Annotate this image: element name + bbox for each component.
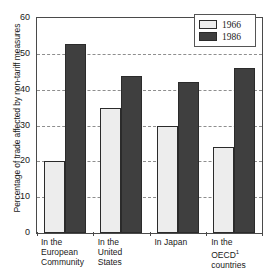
y-axis-tick-label: 0 — [8, 227, 30, 237]
y-axis-tick-label: 30 — [8, 120, 30, 130]
x-axis-label-line: In the — [41, 237, 93, 247]
bar-1966 — [157, 126, 178, 233]
y-axis-tick-label: 50 — [8, 48, 30, 58]
plot-area — [36, 17, 263, 234]
x-axis-category-label: In theUnitedStates — [93, 237, 150, 270]
bar-1986 — [65, 44, 86, 233]
x-axis-tick — [262, 232, 263, 236]
x-axis-tick — [37, 232, 38, 236]
bar-1986 — [178, 82, 199, 233]
x-axis-label-line: OECD1 — [211, 247, 263, 260]
bar-group — [150, 18, 206, 233]
x-axis-label-line: States — [98, 257, 150, 267]
dark-swatch — [199, 32, 217, 41]
legend-label: 1986 — [222, 32, 241, 42]
legend-item: 1966 — [199, 19, 251, 30]
x-axis-tick — [150, 232, 151, 236]
bar-1986 — [234, 68, 255, 233]
x-axis-category-label: In theEuropeanCommunity — [36, 237, 93, 270]
bar-chart: Percentage of trade affected by non-tari… — [0, 0, 269, 271]
x-axis-category-labels: In theEuropeanCommunityIn theUnitedState… — [36, 237, 263, 270]
legend-item: 1986 — [199, 31, 251, 42]
bar-group — [93, 18, 149, 233]
bar-group — [37, 18, 93, 233]
x-axis-label-line: In the — [211, 237, 263, 247]
y-axis-tick-label: 20 — [8, 155, 30, 165]
x-axis-category-label: In theOECD1countries — [206, 237, 263, 270]
bar-1966 — [44, 161, 65, 233]
chart-legend: 19661986 — [194, 14, 256, 47]
legend-label: 1966 — [222, 20, 241, 30]
bar-group — [206, 18, 262, 233]
bar-1966 — [100, 108, 121, 233]
y-axis-tick-label: 60 — [8, 12, 30, 22]
light-swatch — [199, 20, 217, 29]
bar-1986 — [121, 76, 142, 233]
y-axis-tick-labels: 0102030405060 — [8, 0, 30, 271]
x-axis-tick — [206, 232, 207, 236]
bars-layer — [37, 18, 262, 233]
x-axis-tick — [93, 232, 94, 236]
bar-1966 — [213, 147, 234, 233]
y-axis-tick-label: 10 — [8, 191, 30, 201]
x-axis-label-line: In the — [98, 237, 150, 247]
x-axis-label-line: Community — [41, 257, 93, 267]
x-axis-category-label: In Japan — [150, 237, 207, 270]
x-axis-tick-marks — [36, 232, 263, 236]
x-axis-label-line: United — [98, 247, 150, 257]
x-axis-label-line: countries — [211, 260, 263, 270]
x-axis-label-line: European — [41, 247, 93, 257]
footnote-marker: 1 — [236, 249, 239, 255]
x-axis-label-line: In Japan — [155, 237, 207, 247]
y-axis-tick-label: 40 — [8, 84, 30, 94]
